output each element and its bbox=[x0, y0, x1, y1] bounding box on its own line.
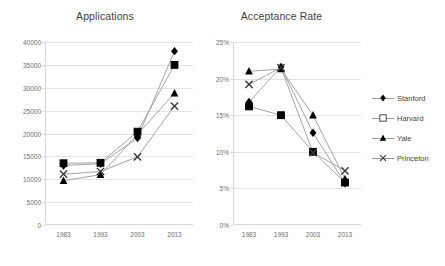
y-tickmark bbox=[42, 225, 45, 226]
plot-area-acceptance: 0%5%10%15%20%25%1983199320032013 bbox=[233, 42, 361, 225]
marker-x-cross bbox=[171, 102, 178, 109]
marker-filled-triangle bbox=[309, 111, 317, 118]
legend-marker-filled-triangle bbox=[372, 132, 394, 144]
marker-hollow-square bbox=[278, 112, 285, 119]
x-tick-label: 1993 bbox=[93, 231, 107, 238]
y-tickmark bbox=[230, 225, 233, 226]
legend-item-stanford[interactable]: Stanford bbox=[372, 88, 429, 108]
series-line-stanford bbox=[249, 67, 345, 183]
chart-title-acceptance: Acceptance Rate bbox=[199, 10, 364, 22]
legend-marker-filled-diamond bbox=[372, 92, 394, 104]
series-line-harvard bbox=[64, 65, 175, 163]
marker-filled-diamond bbox=[380, 95, 386, 102]
series-line-yale bbox=[64, 93, 175, 180]
series-line-princeton bbox=[64, 106, 175, 174]
y-tick-label: 15000 bbox=[23, 153, 41, 160]
marker-filled-diamond bbox=[310, 129, 317, 137]
legend-marker-hollow-square bbox=[372, 112, 394, 124]
marker-x-cross bbox=[134, 153, 141, 160]
legend-label: Yale bbox=[397, 134, 411, 143]
y-tick-label: 0% bbox=[220, 222, 229, 229]
y-tick-label: 35000 bbox=[23, 61, 41, 68]
x-tick-label: 1993 bbox=[274, 231, 288, 238]
legend-item-harvard[interactable]: Harvard bbox=[372, 108, 429, 128]
y-tick-label: 5% bbox=[220, 185, 229, 192]
series-line-princeton bbox=[249, 68, 345, 171]
x-tick-label: 2013 bbox=[167, 231, 181, 238]
y-tick-label: 15% bbox=[216, 112, 229, 119]
y-tick-label: 5000 bbox=[27, 199, 41, 206]
y-tick-label: 20000 bbox=[23, 130, 41, 137]
x-tick-label: 2013 bbox=[338, 231, 352, 238]
series-layer bbox=[233, 42, 361, 225]
chart-title-applications: Applications bbox=[0, 10, 210, 22]
legend-item-yale[interactable]: Yale bbox=[372, 128, 429, 148]
legend-label: Harvard bbox=[397, 114, 424, 123]
chart-panel-applications: Applications 050001000015000200002500030… bbox=[0, 0, 210, 266]
legend-item-princeton[interactable]: Princeton bbox=[372, 148, 429, 168]
marker-hollow-square bbox=[246, 103, 253, 110]
y-tick-label: 10% bbox=[216, 148, 229, 155]
series-line-stanford bbox=[64, 51, 175, 165]
marker-filled-diamond bbox=[171, 47, 178, 55]
marker-hollow-square bbox=[97, 159, 104, 166]
y-tick-label: 20% bbox=[216, 75, 229, 82]
marker-x-cross bbox=[245, 81, 252, 88]
chart-legend: StanfordHarvardYalePrinceton bbox=[372, 88, 429, 168]
marker-hollow-square bbox=[171, 61, 178, 68]
x-tick-label: 1983 bbox=[242, 231, 256, 238]
chart-page: Applications 050001000015000200002500030… bbox=[0, 0, 445, 266]
y-tick-label: 25000 bbox=[23, 107, 41, 114]
legend-label: Princeton bbox=[397, 154, 429, 163]
series-line-harvard bbox=[249, 106, 345, 182]
legend-marker-x-cross bbox=[372, 152, 394, 164]
y-tick-label: 40000 bbox=[23, 39, 41, 46]
y-tick-label: 25% bbox=[216, 39, 229, 46]
y-tick-label: 0 bbox=[37, 222, 41, 229]
plot-area-applications: 0500010000150002000025000300003500040000… bbox=[45, 42, 193, 225]
y-tick-label: 10000 bbox=[23, 176, 41, 183]
marker-hollow-square bbox=[60, 160, 67, 167]
x-tick-label: 2003 bbox=[130, 231, 144, 238]
chart-panel-acceptance: Acceptance Rate 0%5%10%15%20%25%19831993… bbox=[205, 0, 370, 266]
y-tick-label: 30000 bbox=[23, 84, 41, 91]
marker-filled-triangle bbox=[171, 89, 179, 96]
x-tick-label: 1983 bbox=[56, 231, 70, 238]
legend-label: Stanford bbox=[397, 94, 425, 103]
x-tick-label: 2003 bbox=[306, 231, 320, 238]
marker-x-cross bbox=[380, 155, 386, 161]
marker-x-cross bbox=[341, 167, 348, 174]
series-layer bbox=[45, 42, 193, 225]
marker-filled-triangle bbox=[380, 135, 386, 141]
